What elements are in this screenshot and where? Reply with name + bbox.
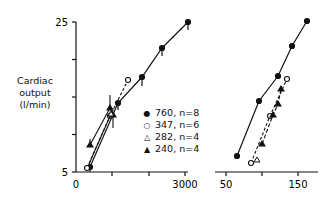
right-series-760	[235, 19, 310, 159]
open-circle-icon: ○	[142, 120, 152, 131]
left-series-240	[87, 95, 116, 147]
y-axis-label: Cardiac output (l/min)	[17, 75, 53, 111]
legend-label: 282, n=4	[155, 131, 199, 142]
left-x-min-label: 0	[73, 179, 79, 190]
filled-circle-icon: ●	[142, 108, 152, 119]
legend-label: 347, n=6	[155, 119, 199, 130]
left-y-top-label: 25	[55, 17, 68, 28]
legend-label: 760, n=8	[155, 107, 199, 118]
right-series-282	[254, 157, 260, 162]
open-triangle-icon: △	[142, 132, 152, 143]
legend: ● 760, n=8 ○ 347, n=6 △ 282, n=4 ▲ 240, …	[142, 107, 199, 155]
left-series-347	[85, 78, 131, 171]
right-series-240	[259, 86, 284, 146]
y-label-line1: Cardiac	[17, 75, 53, 87]
left-x-max-label: 3000	[172, 179, 197, 190]
right-x-max-label: 150	[288, 179, 307, 190]
legend-item: ▲ 240, n=4	[142, 143, 199, 155]
left-y-bottom-label: 5	[62, 167, 68, 178]
y-label-line3: (l/min)	[17, 99, 53, 111]
filled-triangle-icon: ▲	[142, 144, 152, 155]
right-x-min-label: 50	[220, 179, 233, 190]
legend-item: ○ 347, n=6	[142, 119, 199, 131]
legend-item: ● 760, n=8	[142, 107, 199, 119]
y-label-line2: output	[17, 87, 53, 99]
legend-item: △ 282, n=4	[142, 131, 199, 143]
legend-label: 240, n=4	[155, 143, 199, 154]
right-axes	[215, 172, 318, 176]
